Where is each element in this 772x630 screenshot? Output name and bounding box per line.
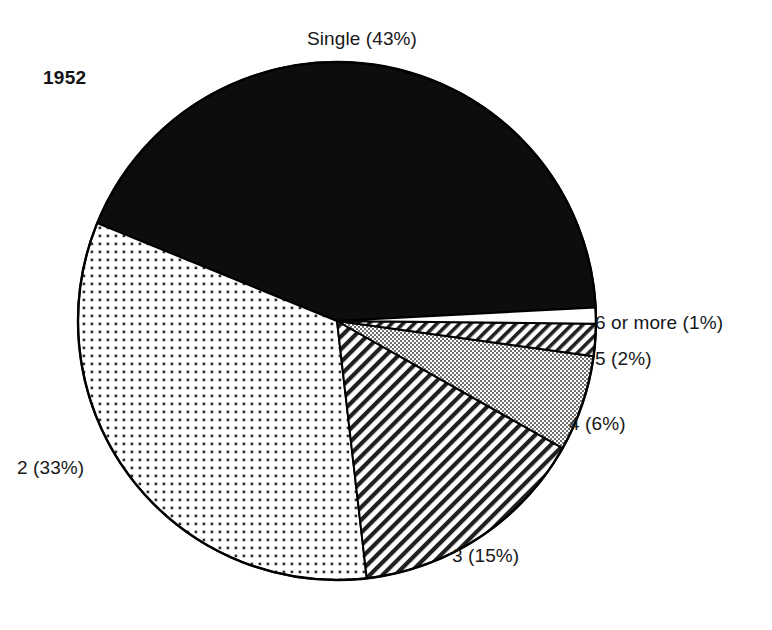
year-label: 1952 (43, 67, 86, 89)
slice-label-three: 3 (15%) (452, 546, 519, 567)
slice-label-six-or-more: 6 or more (1%) (595, 313, 723, 334)
slice-label-four: 4 (6%) (569, 414, 626, 435)
chart-page: 1952 Single (43%) 2 (33%) 3 (15%) 4 (6%)… (0, 0, 772, 630)
slice-label-two: 2 (33%) (17, 458, 84, 479)
slice-label-single: Single (43%) (307, 29, 417, 50)
slice-label-five: 5 (2%) (595, 349, 652, 370)
